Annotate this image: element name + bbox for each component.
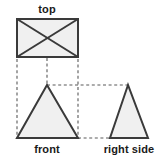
front-view-triangle <box>17 85 78 138</box>
front-view-label: front <box>34 143 60 155</box>
orthographic-projection-diagram: top front right side <box>0 0 159 162</box>
multiview-drawing-canvas: top front right side <box>0 0 159 162</box>
top-view-group <box>17 19 78 57</box>
right-side-view-label: right side <box>104 143 155 155</box>
right-side-view-triangle <box>110 85 148 138</box>
front-view-group <box>17 85 78 138</box>
top-view-label: top <box>38 3 56 15</box>
right-side-view-group <box>110 85 148 138</box>
